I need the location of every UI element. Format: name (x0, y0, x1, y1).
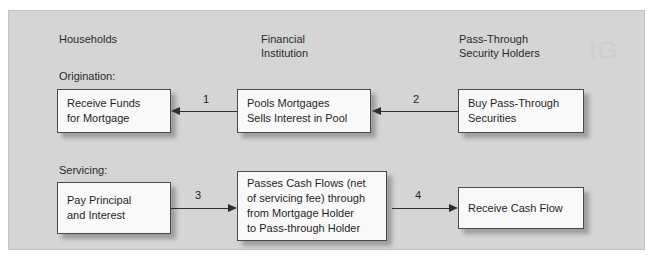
node-pools-mortgages: Pools Mortgages Sells Interest in Pool (237, 89, 371, 133)
arrow-1-head-icon (171, 107, 180, 115)
node-pay-principal-text: Pay Principal and Interest (58, 193, 137, 223)
node-buy-pass-through-text: Buy Pass-Through Securities (459, 96, 565, 126)
node-pools-mortgages-text: Pools Mortgages Sells Interest in Pool (238, 96, 353, 126)
arrow-3-line (171, 208, 228, 209)
node-receive-cash-flow-text: Receive Cash Flow (459, 201, 569, 216)
arrow-2-label: 2 (413, 93, 419, 105)
node-buy-pass-through: Buy Pass-Through Securities (458, 89, 584, 133)
arrow-3-label: 3 (195, 189, 201, 201)
node-receive-funds-text: Receive Funds for Mortgage (58, 96, 146, 126)
diagram-canvas: IG Households Financial Institution Pass… (0, 0, 656, 272)
section-label-origination: Origination: (59, 69, 115, 83)
arrow-3-head-icon (228, 204, 237, 212)
arrow-1-line (180, 111, 237, 112)
arrow-1-label: 1 (203, 93, 209, 105)
arrow-4-label: 4 (415, 189, 421, 201)
column-header-pass-through-security-holders: Pass-Through Security Holders (459, 32, 629, 60)
node-pay-principal: Pay Principal and Interest (57, 182, 171, 234)
arrow-2-head-icon (372, 107, 381, 115)
column-header-financial-institution: Financial Institution (261, 32, 411, 60)
arrow-2-line (381, 111, 458, 112)
section-label-servicing: Servicing: (59, 163, 107, 177)
diagram-panel: IG Households Financial Institution Pass… (8, 10, 645, 250)
node-passes-cash-flows-text: Passes Cash Flows (net of servicing fee)… (238, 176, 372, 236)
node-passes-cash-flows: Passes Cash Flows (net of servicing fee)… (237, 171, 387, 241)
column-header-households: Households (59, 32, 209, 46)
arrow-4-head-icon (449, 204, 458, 212)
arrow-4-line (392, 208, 449, 209)
node-receive-funds: Receive Funds for Mortgage (57, 89, 171, 133)
node-receive-cash-flow: Receive Cash Flow (458, 187, 584, 229)
